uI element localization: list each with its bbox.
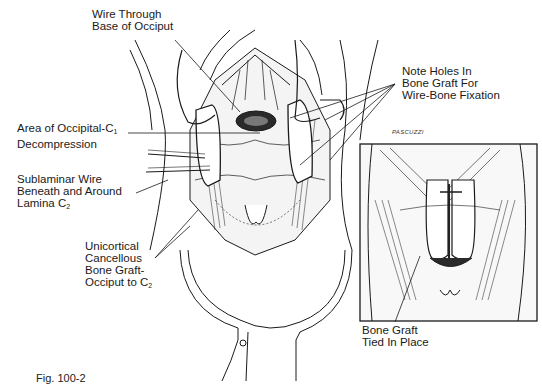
head-holder-frame [180, 250, 352, 381]
artist-signature: PASCUZZI [392, 129, 424, 135]
label-occipital-c1-decompression: Area of Occipital-C1 Decompression [17, 122, 117, 150]
label-note-holes: Note Holes In Bone Graft For Wire-Bone F… [402, 65, 500, 101]
label-wire-through-base-of-occiput: Wire Through Base of Occiput [92, 8, 173, 32]
label-sublaminar-wire: Sublaminar Wire Beneath and Around Lamin… [17, 173, 122, 213]
inset-view [360, 144, 537, 321]
label-bone-graft-tied: Bone Graft Tied In Place [362, 324, 429, 348]
label-unicortical-bone-graft: Unicortical Cancellous Bone Graft- Occip… [85, 240, 152, 292]
figure-caption: Fig. 100-2 [36, 372, 86, 384]
